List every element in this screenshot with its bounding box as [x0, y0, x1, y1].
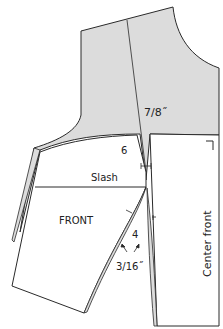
seam-number-top: 6 [121, 145, 127, 156]
small-measure-label: 3/16˝ [116, 261, 143, 272]
seam-number-bottom: 4 [132, 229, 138, 240]
arrow-icons [121, 244, 139, 252]
pattern-diagram: 7/8˝ 6 Slash FRONT 4 3/16˝ Center front [0, 0, 223, 329]
front-label: FRONT [59, 215, 94, 226]
slash-label: Slash [91, 172, 118, 183]
pattern-svg: 7/8˝ 6 Slash FRONT 4 3/16˝ Center front [0, 0, 223, 329]
center-front-label: Center front [201, 210, 214, 277]
dart-width-label: 7/8˝ [144, 106, 168, 119]
